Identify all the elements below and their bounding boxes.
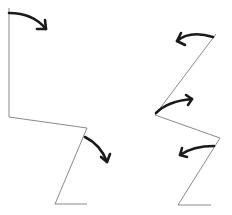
arrow-knee-clockwise-icon <box>85 137 110 162</box>
right-figure-outline <box>155 34 220 205</box>
right-figure <box>155 33 220 205</box>
arrow-hip-counterclockwise-icon <box>156 95 192 113</box>
diagram-canvas <box>0 0 232 215</box>
left-figure <box>9 8 110 204</box>
arrow-top-clockwise-icon <box>9 13 46 29</box>
left-figure-outline <box>9 8 87 204</box>
arrow-curve <box>177 34 213 41</box>
arrow-top-counterclockwise-icon <box>177 33 213 45</box>
arrow-curve <box>9 13 46 29</box>
arrow-curve <box>180 146 214 155</box>
